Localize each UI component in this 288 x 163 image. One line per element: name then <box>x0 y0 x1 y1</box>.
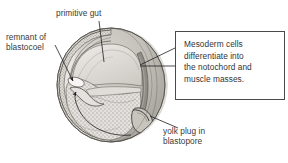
mesoderm-callout-text: Mesoderm cells differentiate into the no… <box>184 39 252 85</box>
figure-root: primitive gut remnant of blastocoel yolk… <box>0 0 288 163</box>
mesoderm-callout-box: Mesoderm cells differentiate into the no… <box>175 31 285 100</box>
label-yolk-plug-in-blastopore: yolk plug in blastopore <box>163 126 205 146</box>
label-remnant-of-blastocoel: remnant of blastocoel <box>6 32 46 52</box>
embryo-sphere <box>57 28 168 142</box>
label-primitive-gut: primitive gut <box>56 8 101 18</box>
